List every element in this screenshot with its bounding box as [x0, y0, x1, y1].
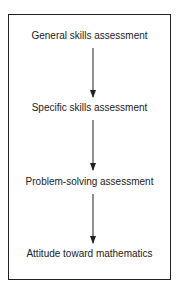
arrow-down-icon: [90, 48, 96, 98]
flow-arrows: [0, 0, 179, 288]
arrow-down-icon: [90, 194, 96, 244]
arrow-down-icon: [90, 120, 96, 171]
